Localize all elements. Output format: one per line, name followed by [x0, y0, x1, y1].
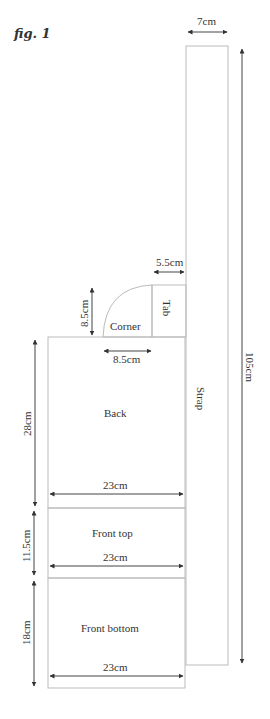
- pattern-diagram: fig. 1 Strap 7cm 105cm Tab 5.5cm Corner …: [0, 0, 270, 719]
- corner-label: Corner: [110, 320, 141, 332]
- front-top-label: Front top: [92, 527, 133, 539]
- front-top-height-label: 11.5cm: [20, 529, 32, 562]
- back-width-label: 23cm: [103, 479, 128, 491]
- front-top-width-label: 23cm: [103, 551, 128, 563]
- corner-width-label: 8.5cm: [113, 353, 141, 365]
- front-bottom-label: Front bottom: [81, 622, 139, 634]
- tab-width-label: 5.5cm: [156, 256, 184, 268]
- back-label: Back: [104, 407, 127, 419]
- figure-label: fig. 1: [13, 26, 51, 41]
- front-bottom-height-label: 18cm: [20, 620, 32, 645]
- strap-piece: [186, 46, 228, 665]
- front-bottom-width-label: 23cm: [103, 661, 128, 673]
- front-top-piece: [48, 508, 185, 578]
- strap-width-label: 7cm: [197, 15, 216, 27]
- strap-length-label: 105cm: [244, 352, 256, 382]
- strap-label: Strap: [195, 387, 207, 411]
- corner-height-label: 8.5cm: [78, 299, 90, 327]
- back-height-label: 28cm: [21, 411, 33, 436]
- tab-label: Tab: [161, 300, 173, 317]
